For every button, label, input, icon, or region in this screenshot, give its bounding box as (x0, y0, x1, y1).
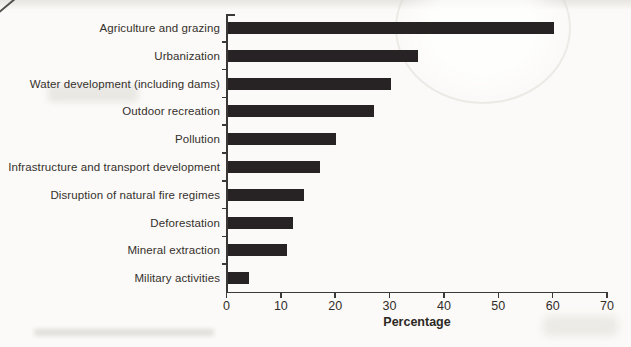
category-label: Infrastructure and transport development (0, 160, 220, 174)
y-axis-tick (222, 263, 227, 265)
x-axis-tick (443, 293, 445, 298)
x-tick-label: 20 (320, 299, 350, 313)
bar (228, 133, 337, 145)
category-label: Military activities (0, 271, 220, 285)
scan-watermark-circle (395, 0, 571, 104)
x-tick-label: 70 (592, 299, 622, 313)
category-label: Water development (including dams) (0, 77, 220, 91)
category-label: Mineral extraction (0, 243, 220, 257)
ghost-caption-smudge (34, 329, 214, 336)
category-label: Urbanization (0, 49, 220, 63)
x-axis-tick (226, 293, 228, 298)
x-axis-tick (334, 293, 336, 298)
bar (228, 105, 375, 117)
bar (228, 272, 250, 284)
bar (228, 22, 554, 34)
y-axis-tick (222, 236, 227, 238)
x-tick-label: 50 (483, 299, 513, 313)
x-axis-tick (498, 293, 500, 298)
x-axis-title: Percentage (227, 315, 607, 329)
y-axis-tick (222, 124, 227, 126)
scanned-page: Percentage Agriculture and grazingUrbani… (0, 0, 631, 347)
x-axis-line (226, 292, 608, 294)
category-label: Outdoor recreation (0, 104, 220, 118)
x-axis-tick (552, 293, 554, 298)
y-axis-tick (222, 152, 227, 154)
y-axis-tick (222, 41, 227, 43)
x-axis-tick (606, 293, 608, 298)
category-label: Disruption of natural fire regimes (0, 188, 220, 202)
y-axis-top-tick (227, 14, 235, 16)
bar (228, 50, 418, 62)
category-label: Pollution (0, 132, 220, 146)
x-axis-tick (389, 293, 391, 298)
bar (228, 78, 391, 90)
x-tick-label: 60 (538, 299, 568, 313)
bar (228, 161, 320, 173)
y-axis-tick (222, 208, 227, 210)
x-tick-label: 40 (429, 299, 459, 313)
y-axis-tick (222, 180, 227, 182)
bar (228, 189, 304, 201)
category-label: Deforestation (0, 216, 220, 230)
x-tick-label: 10 (266, 299, 296, 313)
x-axis-tick (280, 293, 282, 298)
y-axis-tick (222, 97, 227, 99)
bar (228, 244, 288, 256)
x-tick-label: 0 (212, 299, 242, 313)
category-label: Agriculture and grazing (0, 21, 220, 35)
x-tick-label: 30 (375, 299, 405, 313)
y-axis-tick (222, 69, 227, 71)
bar (228, 217, 293, 229)
